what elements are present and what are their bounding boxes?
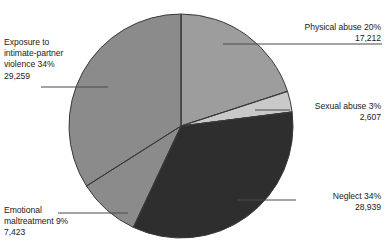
pie-chart-figure: Physical abuse 20% 17,212 Sexual abuse 3… [0, 0, 384, 252]
slice-label-emotional-maltreatment: Emotional maltreatment 9% 7,423 [4, 205, 124, 239]
slice-label-sexual-abuse: Sexual abuse 3% 2,607 [259, 101, 381, 123]
slice-label-physical-abuse: Physical abuse 20% 17,212 [251, 22, 381, 44]
slice-label-neglect: Neglect 34% 28,939 [265, 191, 381, 213]
slice-label-exposure-ipv: Exposure to intimate-partner violence 34… [4, 37, 124, 82]
